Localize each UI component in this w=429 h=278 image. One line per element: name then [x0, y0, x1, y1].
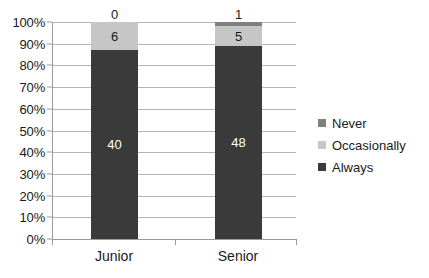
- y-tick-label-70: 70%: [20, 80, 45, 95]
- y-tick-label-0: 0%: [27, 232, 45, 247]
- bar-senior-always-label: 48: [231, 136, 245, 149]
- y-tick-mark-10: [47, 217, 52, 218]
- legend-item-always[interactable]: Always: [318, 160, 406, 174]
- y-tick-mark-20: [47, 195, 52, 196]
- bar-junior[interactable]: 0 6 40: [91, 22, 138, 239]
- x-tick-mark-left: [52, 239, 53, 245]
- legend-swatch-never-icon: [318, 119, 326, 127]
- plot-area: 0 6 40 1 5 48: [53, 22, 296, 239]
- y-tick-label-60: 60%: [20, 101, 45, 116]
- bar-junior-segment-always[interactable]: 40: [91, 50, 138, 239]
- chart-legend: Never Occasionally Always: [318, 116, 406, 174]
- legend-swatch-always-icon: [318, 163, 326, 171]
- bar-junior-never-label: 0: [91, 8, 138, 21]
- y-tick-mark-80: [47, 65, 52, 66]
- bar-senior-never-label: 1: [215, 8, 262, 21]
- y-tick-mark-100: [47, 22, 52, 23]
- legend-swatch-occasionally-icon: [318, 141, 326, 149]
- y-tick-mark-50: [47, 130, 52, 131]
- bar-senior[interactable]: 1 5 48: [215, 22, 262, 239]
- y-tick-mark-70: [47, 87, 52, 88]
- y-tick-label-40: 40%: [20, 145, 45, 160]
- bar-junior-occasionally-label: 6: [111, 30, 118, 43]
- y-tick-label-20: 20%: [20, 188, 45, 203]
- legend-label-occasionally: Occasionally: [332, 139, 406, 152]
- y-axis: 100% 90% 80% 70% 60% 50% 40% 30% 20% 10%…: [0, 0, 50, 278]
- y-tick-label-100: 100%: [13, 15, 45, 30]
- y-tick-label-90: 90%: [20, 36, 45, 51]
- y-tick-label-80: 80%: [20, 58, 45, 73]
- x-tick-mark-middle: [175, 239, 176, 245]
- bar-senior-segment-occasionally[interactable]: 5: [215, 26, 262, 46]
- y-tick-mark-40: [47, 152, 52, 153]
- x-tick-mark-right: [296, 239, 297, 245]
- legend-item-occasionally[interactable]: Occasionally: [318, 138, 406, 152]
- legend-item-never[interactable]: Never: [318, 116, 406, 130]
- legend-label-never: Never: [332, 117, 367, 130]
- y-tick-label-50: 50%: [20, 123, 45, 138]
- bar-senior-occasionally-label: 5: [235, 30, 242, 43]
- x-axis-label-junior: Junior: [95, 248, 133, 264]
- stacked-bar-chart: 100% 90% 80% 70% 60% 50% 40% 30% 20% 10%…: [0, 0, 429, 278]
- bar-junior-always-label: 40: [107, 138, 121, 151]
- y-tick-label-10: 10%: [20, 210, 45, 225]
- bar-senior-segment-always[interactable]: 48: [215, 46, 262, 239]
- y-tick-label-30: 30%: [20, 166, 45, 181]
- x-axis-label-senior: Senior: [218, 248, 258, 264]
- y-tick-mark-60: [47, 108, 52, 109]
- y-tick-mark-90: [47, 43, 52, 44]
- bar-junior-segment-occasionally[interactable]: 6: [91, 22, 138, 50]
- legend-label-always: Always: [332, 161, 373, 174]
- y-tick-mark-30: [47, 173, 52, 174]
